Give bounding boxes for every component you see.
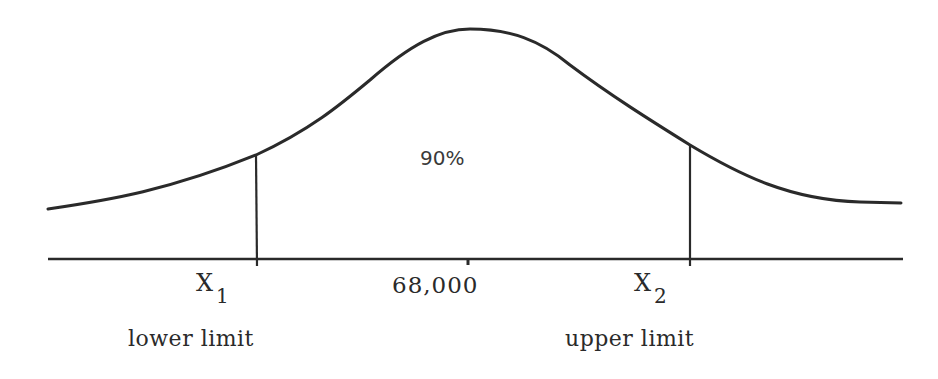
bell-curve (48, 29, 901, 209)
upper-limit-symbol: X2 (634, 269, 667, 297)
mean-label: 68,000 (392, 272, 478, 298)
lower-limit-symbol: X1 (196, 269, 229, 297)
normal-distribution-figure: 90% X1 68,000 X2 lower limit upper limit (0, 0, 938, 379)
upper-limit-caption: upper limit (565, 326, 694, 351)
central-area-label: 90% (420, 146, 464, 170)
distribution-plot (0, 0, 938, 379)
lower-limit-line (256, 155, 257, 266)
lower-limit-caption: lower limit (128, 326, 254, 351)
